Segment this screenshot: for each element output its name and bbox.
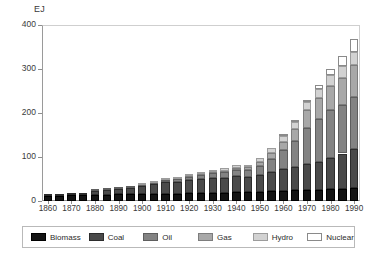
bar-1955: [267, 25, 275, 201]
bar-segment-oil: [91, 189, 99, 191]
bar-segment-oil: [173, 179, 181, 181]
bar-segment-oil: [291, 141, 299, 167]
bar-1985: [338, 25, 346, 201]
bar-segment-hydro: [256, 158, 264, 162]
bar-segment-biomass: [55, 196, 63, 201]
bar-segment-oil: [126, 186, 134, 188]
bar-segment-biomass: [197, 193, 205, 201]
bar-segment-coal: [267, 172, 275, 191]
legend-swatch-coal: [89, 233, 104, 241]
x-tick-label: 1860: [39, 204, 57, 213]
bar-1930: [209, 25, 217, 201]
bar-segment-biomass: [303, 190, 311, 201]
legend-swatch-biomass: [31, 233, 46, 241]
x-tick-label: 1980: [321, 204, 339, 213]
bar-segment-coal: [150, 184, 158, 194]
x-tick-label: 1900: [133, 204, 151, 213]
bar-segment-coal: [232, 176, 240, 192]
bar-segment-biomass: [220, 193, 228, 201]
bar-segment-gas: [220, 170, 228, 172]
bar-1890: [114, 25, 122, 201]
bar-1990: [350, 25, 358, 201]
x-tick-label: 1910: [157, 204, 175, 213]
x-tick-label: 1890: [109, 204, 127, 213]
bar-1915: [173, 25, 181, 201]
bar-segment-oil: [232, 170, 240, 177]
bar-segment-coal: [55, 194, 63, 196]
bar-segment-nuclear: [315, 85, 323, 89]
bar-segment-oil: [326, 110, 334, 158]
plot-area: [42, 25, 360, 201]
bar-segment-hydro: [185, 174, 193, 176]
bar-segment-nuclear: [338, 56, 346, 66]
x-tick-label: 1870: [62, 204, 80, 213]
bar-segment-coal: [279, 169, 287, 191]
bar-segment-gas: [338, 78, 346, 105]
chart-legend: BiomassCoalOilGasHydroNuclear: [22, 226, 355, 248]
bar-segment-biomass: [267, 191, 275, 201]
figure-caption: [4, 251, 364, 260]
bar-1945: [244, 25, 252, 201]
bar-1960: [279, 25, 287, 201]
bar-segment-hydro: [209, 170, 217, 172]
legend-item-biomass[interactable]: Biomass: [23, 233, 81, 242]
legend-item-coal[interactable]: Coal: [81, 233, 136, 242]
bar-segment-oil: [350, 97, 358, 149]
bar-segment-coal: [185, 180, 193, 193]
bar-segment-coal: [44, 194, 52, 196]
bar-segment-coal: [126, 188, 134, 195]
y-axis-tick: 100: [0, 157, 42, 158]
bar-1865: [55, 25, 63, 201]
legend-label: Nuclear: [326, 233, 354, 242]
bar-segment-biomass: [244, 192, 252, 201]
legend-swatch-oil: [143, 233, 158, 241]
bar-segment-coal: [338, 154, 346, 189]
bar-segment-gas: [244, 167, 252, 170]
bar-segment-gas: [267, 153, 275, 159]
bar-1870: [67, 25, 75, 201]
bar-segment-coal: [209, 178, 217, 193]
bar-segment-biomass: [350, 188, 358, 201]
x-tick-label: 1930: [204, 204, 222, 213]
legend-swatch-hydro: [253, 233, 268, 241]
legend-item-oil[interactable]: Oil: [135, 233, 190, 242]
y-axis-tick: 400: [0, 25, 42, 26]
bar-segment-hydro: [326, 75, 334, 86]
x-tick-label: 1970: [298, 204, 316, 213]
bar-segment-biomass: [103, 195, 111, 201]
bar-segment-gas: [326, 86, 334, 110]
bar-1940: [232, 25, 240, 201]
bar-segment-hydro: [267, 148, 275, 152]
bar-segment-hydro: [244, 165, 252, 168]
bar-1950: [256, 25, 264, 201]
y-axis-tick: 200: [0, 113, 42, 114]
bar-segment-oil: [197, 175, 205, 179]
bar-segment-coal: [220, 178, 228, 193]
bar-segment-coal: [197, 179, 205, 193]
bar-segment-hydro: [338, 66, 346, 78]
bar-segment-biomass: [173, 194, 181, 201]
bar-segment-biomass: [209, 193, 217, 201]
bar-segment-coal: [161, 182, 169, 193]
bar-segment-biomass: [150, 194, 158, 201]
bar-segment-coal: [103, 190, 111, 194]
y-tick-label: 400: [22, 19, 36, 29]
bar-1965: [291, 25, 299, 201]
bar-segment-biomass: [315, 190, 323, 201]
legend-swatch-nuclear: [307, 233, 322, 241]
bar-segment-gas: [291, 129, 299, 141]
y-axis-tick: 0: [0, 201, 42, 202]
legend-item-gas[interactable]: Gas: [190, 233, 245, 242]
bar-segment-oil: [303, 128, 311, 165]
y-tick-label: 200: [22, 107, 36, 117]
x-tick-label: 1880: [86, 204, 104, 213]
bar-1880: [91, 25, 99, 201]
y-tick-mark: [38, 69, 42, 70]
legend-item-hydro[interactable]: Hydro: [245, 233, 300, 242]
bar-segment-coal: [173, 182, 181, 194]
bar-segment-nuclear: [279, 134, 287, 136]
bar-segment-oil: [279, 150, 287, 168]
bar-segment-coal: [256, 175, 264, 192]
legend-item-nuclear[interactable]: Nuclear: [299, 233, 354, 242]
legend-swatch-gas: [198, 233, 213, 241]
